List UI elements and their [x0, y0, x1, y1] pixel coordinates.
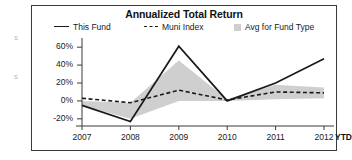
y-axis-tick-label: -20%: [39, 113, 73, 123]
legend-label-this-fund: This Fund: [73, 22, 111, 32]
legend-item-avg-for-fund-type: Avg for Fund Type: [234, 22, 314, 32]
y-axis-tick-label: 40%: [39, 59, 73, 69]
x-axis-tick-label: 2011: [256, 132, 296, 142]
ytd-label: YTD: [335, 132, 352, 142]
x-axis-tick-label: 2008: [110, 132, 150, 142]
left-margin-artifacts: s s: [2, 0, 28, 160]
legend-item-muni-index: Muni Index: [144, 22, 204, 32]
filled-square-icon: [234, 24, 241, 31]
legend-label-muni-index: Muni Index: [162, 22, 204, 32]
x-axis-tick-label: 2009: [159, 132, 199, 142]
y-axis-tick-label: 0%: [39, 95, 73, 105]
avg-for-fund-type-band: [82, 61, 324, 119]
plot-area: 60%40%20%0%-20% 200720082009201020112012…: [32, 34, 338, 152]
x-axis-tick-label: 2007: [62, 132, 102, 142]
y-axis-tick-label: 20%: [39, 77, 73, 87]
dashed-line-icon: [144, 26, 158, 27]
y-axis-tick-label: 60%: [39, 41, 73, 51]
legend-label-avg-for-fund-type: Avg for Fund Type: [245, 22, 314, 32]
x-axis-tick-label: 2010: [207, 132, 247, 142]
legend-item-this-fund: This Fund: [54, 22, 111, 32]
chart-panel: Annualized Total Return This Fund Muni I…: [31, 5, 337, 151]
chart-title: Annualized Total Return: [32, 8, 336, 20]
solid-line-icon: [54, 26, 69, 27]
